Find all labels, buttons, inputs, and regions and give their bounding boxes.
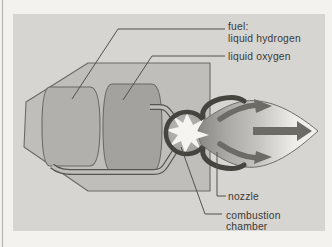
fuel-tank (42, 87, 100, 166)
rocket-engine-diagram: fuel: liquid hydrogen liquid oxygen nozz… (0, 0, 332, 247)
label-liquid-oxygen: liquid oxygen (228, 51, 291, 62)
label-liquid-hydrogen: liquid hydrogen (228, 33, 301, 44)
label-chamber: chamber (226, 221, 268, 232)
oxygen-tank (103, 84, 162, 172)
scanned-page: fuel: liquid hydrogen liquid oxygen nozz… (0, 0, 332, 247)
label-nozzle: nozzle (228, 191, 259, 202)
label-combustion: combustion (226, 210, 281, 221)
label-fuel: fuel: (228, 21, 248, 32)
